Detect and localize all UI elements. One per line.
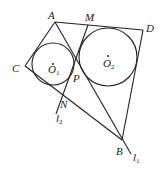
geometry-diagram: A M D C P N B O1 O2 l1 l2 — [0, 0, 161, 173]
label-O1: O1 — [48, 63, 60, 77]
label-D: D — [145, 22, 154, 34]
label-O2: O2 — [103, 57, 115, 71]
label-N: N — [59, 98, 68, 110]
label-B: B — [116, 145, 123, 157]
label-M: M — [84, 11, 95, 23]
label-P: P — [72, 72, 80, 84]
label-A: A — [47, 9, 55, 21]
line-l1 — [55, 22, 131, 154]
segment-DB — [122, 30, 143, 140]
label-l2: l2 — [56, 112, 63, 126]
label-C: C — [12, 62, 20, 74]
segment-AC — [25, 22, 55, 66]
segment-AD — [55, 22, 143, 30]
label-l1: l1 — [133, 151, 140, 165]
